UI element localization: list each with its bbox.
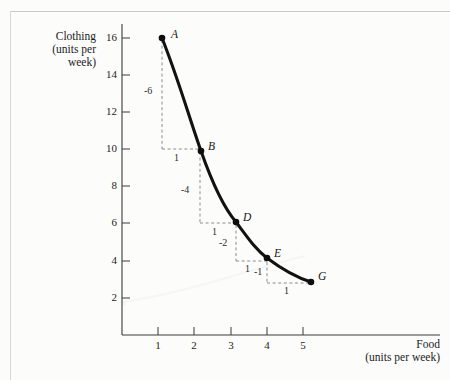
step-run-label-de: 1 [245, 263, 250, 274]
y-tick-label-14: 14 [95, 68, 117, 80]
step-staircase-dashed [162, 40, 310, 283]
point-label-e: E [274, 247, 281, 259]
y-axis-title-line2: (units per [18, 43, 96, 56]
data-point-d [233, 219, 240, 226]
y-tick-label-8: 8 [95, 179, 117, 191]
x-axis-title-line1: Food [300, 338, 440, 351]
x-tick-label-3: 3 [221, 339, 241, 351]
x-tick-label-4: 4 [257, 339, 277, 351]
point-label-g: G [318, 270, 326, 282]
x-axis-title-line2: (units per week) [300, 351, 440, 364]
data-point-a [159, 35, 166, 42]
point-label-b: B [208, 140, 215, 152]
x-tick-label-2: 2 [184, 339, 204, 351]
data-point-b [198, 148, 205, 155]
indifference-curve-line [162, 38, 311, 282]
y-tick-label-4: 4 [95, 254, 117, 266]
scan-bleedthrough-ghost [122, 256, 305, 305]
x-axis-ticks [158, 327, 303, 335]
step-drop-label-bd: -4 [181, 184, 189, 195]
y-tick-label-6: 6 [95, 216, 117, 228]
point-label-a: A [171, 28, 178, 40]
step-run-label-ab: 1 [174, 152, 179, 163]
step-drop-label-eg: -1 [254, 266, 262, 277]
y-axis-title-line3: week) [18, 56, 96, 69]
y-axis-title-line1: Clothing [18, 30, 96, 43]
data-point-e [264, 255, 271, 262]
data-point-g [308, 279, 315, 286]
step-run-label-eg: 1 [284, 285, 289, 296]
figure-page: Clothing (units per week) Food (units pe… [0, 0, 450, 380]
y-axis-title: Clothing (units per week) [18, 30, 96, 69]
y-tick-label-16: 16 [95, 31, 117, 43]
x-axis-title: Food (units per week) [300, 338, 440, 364]
y-tick-label-12: 12 [95, 105, 117, 117]
x-tick-label-1: 1 [148, 339, 168, 351]
x-tick-label-5: 5 [293, 339, 313, 351]
step-drop-label-ab: -6 [144, 85, 152, 96]
y-tick-label-10: 10 [95, 142, 117, 154]
y-tick-label-2: 2 [95, 291, 117, 303]
step-run-label-bd: 1 [212, 226, 217, 237]
step-drop-label-de: -2 [219, 237, 227, 248]
point-label-d: D [243, 211, 251, 223]
y-axis-ticks [122, 38, 130, 298]
